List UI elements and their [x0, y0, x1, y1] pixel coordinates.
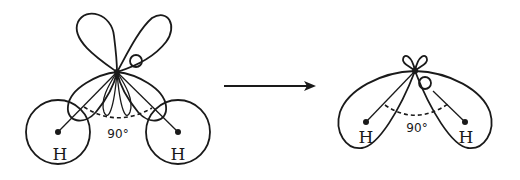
- oxygen-nucleus: [114, 69, 120, 75]
- upper-right-lobe: [117, 15, 171, 72]
- oxygen-nucleus-right: [412, 68, 418, 74]
- hydrogen-right-nucleus-right: [462, 119, 468, 125]
- hydrogen-right-label-right: H: [459, 127, 474, 147]
- hydrogen-left-label: H: [53, 144, 68, 164]
- right-molecule: H H 90°: [338, 56, 491, 148]
- angle-label-right: 90°: [406, 121, 427, 135]
- diagram-canvas: H H 90° H H 90°: [0, 0, 520, 180]
- upper-left-lobe: [77, 14, 117, 72]
- hydrogen-left-label-right: H: [359, 127, 374, 147]
- hydrogen-left-nucleus: [55, 129, 61, 135]
- hydrogen-right-nucleus: [175, 129, 181, 135]
- angle-label-left: 90°: [107, 127, 128, 141]
- left-molecule: H H 90°: [26, 14, 210, 164]
- hydrogen-right-label: H: [171, 144, 186, 164]
- reaction-arrow: [224, 81, 316, 91]
- large-right-lobe: [415, 71, 492, 148]
- hydrogen-left-nucleus-right: [363, 119, 369, 125]
